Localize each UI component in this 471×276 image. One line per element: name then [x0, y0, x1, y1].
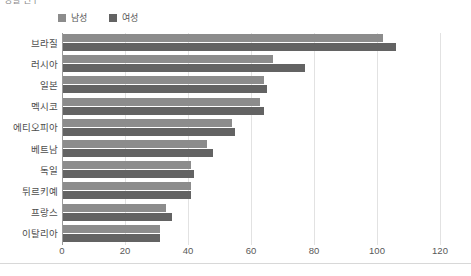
y-axis-label-8: 프랑스 — [0, 207, 58, 218]
bar-row — [62, 139, 440, 160]
bar-male[interactable] — [62, 55, 273, 63]
bar-female[interactable] — [62, 149, 213, 157]
bar-female[interactable] — [62, 191, 191, 199]
bar-row — [62, 54, 440, 75]
chart-legend: 남성 여성 — [0, 13, 471, 23]
y-axis-label-2: 일본 — [0, 80, 58, 91]
legend-item-male[interactable]: 남성 — [58, 13, 87, 23]
plot-area — [62, 33, 440, 245]
bar-female[interactable] — [62, 170, 194, 178]
x-axis-tick-label: 80 — [309, 245, 320, 257]
bar-male[interactable] — [62, 119, 232, 127]
y-axis-label-1: 러시아 — [0, 59, 58, 70]
x-axis-ticks: 020406080100120 — [0, 245, 471, 259]
y-axis-label-7: 튀르키예 — [0, 186, 58, 197]
bar-female[interactable] — [62, 213, 172, 221]
plot-wrap: 브라질러시아일본멕시코에티오피아베트남독일튀르키예프랑스이탈리아 — [0, 33, 471, 245]
bar-male[interactable] — [62, 204, 166, 212]
bar-male[interactable] — [62, 76, 264, 84]
x-axis-tick-label: 40 — [183, 245, 194, 257]
bar-row — [62, 160, 440, 181]
bar-male[interactable] — [62, 34, 383, 42]
y-axis-label-4: 에티오피아 — [0, 122, 58, 133]
bar-male[interactable] — [62, 161, 191, 169]
y-axis-label-5: 베트남 — [0, 144, 58, 155]
bar-female[interactable] — [62, 128, 235, 136]
x-axis-tick-label: 20 — [120, 245, 131, 257]
bar-row — [62, 97, 440, 118]
bottom-divider — [0, 263, 471, 264]
bar-male[interactable] — [62, 98, 260, 106]
bar-female[interactable] — [62, 85, 267, 93]
y-axis-category-labels: 브라질러시아일본멕시코에티오피아베트남독일튀르키예프랑스이탈리아 — [0, 33, 58, 245]
bar-female[interactable] — [62, 107, 264, 115]
bar-female[interactable] — [62, 64, 305, 72]
legend-swatch-male-icon — [58, 14, 66, 22]
bar-male[interactable] — [62, 225, 160, 233]
bar-row — [62, 203, 440, 224]
bar-male[interactable] — [62, 140, 207, 148]
y-axis-label-0: 브라질 — [0, 38, 58, 49]
gridline — [440, 33, 441, 245]
bar-female[interactable] — [62, 43, 396, 51]
bar-row — [62, 75, 440, 96]
legend-label-male: 남성 — [71, 13, 87, 23]
y-axis-label-3: 멕시코 — [0, 101, 58, 112]
legend-item-female[interactable]: 여성 — [109, 13, 138, 23]
legend-swatch-female-icon — [109, 14, 117, 22]
y-axis-line — [62, 33, 63, 245]
bar-female[interactable] — [62, 234, 160, 242]
bar-row — [62, 118, 440, 139]
y-axis-label-9: 이탈리아 — [0, 228, 58, 239]
x-axis-tick-label: 60 — [246, 245, 257, 257]
bar-male[interactable] — [62, 182, 191, 190]
bar-row — [62, 224, 440, 245]
x-axis-tick-label: 0 — [59, 245, 64, 257]
y-axis-label-6: 독일 — [0, 165, 58, 176]
legend-label-female: 여성 — [122, 13, 138, 23]
bar-row — [62, 33, 440, 54]
x-axis-tick-label: 120 — [432, 245, 448, 257]
chart-title-cropped: 성별 인구 — [4, 0, 39, 5]
bar-rows — [62, 33, 440, 245]
bar-chart: 성별 인구 남성 여성 브라질러시아일본멕시코에티오피아베트남독일튀르키예프랑스… — [0, 0, 471, 276]
bar-row — [62, 181, 440, 202]
x-axis-tick-label: 100 — [369, 245, 385, 257]
